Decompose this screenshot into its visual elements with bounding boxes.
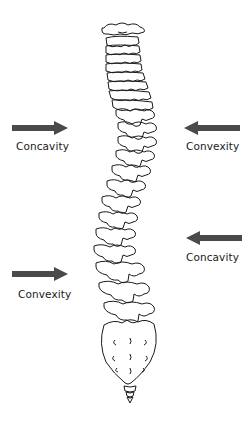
spine-illustration: [0, 0, 250, 426]
thoracic-vertebra: [112, 165, 151, 183]
upper-left-label: Concavity: [16, 140, 69, 152]
lower-right-label: Concavity: [186, 251, 239, 263]
lumbar-vertebra: [96, 261, 144, 283]
cervical-vertebra: [109, 90, 151, 101]
sacrum: [101, 320, 156, 384]
cervical-vertebra: [108, 81, 148, 91]
thoracic-vertebra: [118, 136, 157, 154]
lumbar-vertebra: [99, 281, 149, 303]
arrow-right-icon: [12, 120, 70, 136]
thoracic-vertebra: [99, 212, 138, 230]
thoracic-vertebra: [107, 180, 146, 198]
upper-right-label: Convexity: [186, 140, 239, 152]
arrow-left-icon: [184, 230, 242, 246]
thoracic-vertebra: [116, 109, 155, 127]
arrow-right-icon: [12, 266, 70, 282]
cervical-vertebra: [106, 54, 141, 64]
thoracic-vertebra: [96, 228, 136, 247]
thoracic-vertebra: [102, 196, 141, 214]
thoracic-vertebra: [94, 245, 136, 264]
cervical-vertebra: [107, 72, 145, 82]
coccyx: [124, 386, 136, 403]
lower-left-label: Convexity: [18, 288, 71, 300]
arrow-left-icon: [182, 120, 240, 136]
cervical-vertebra: [106, 63, 142, 73]
